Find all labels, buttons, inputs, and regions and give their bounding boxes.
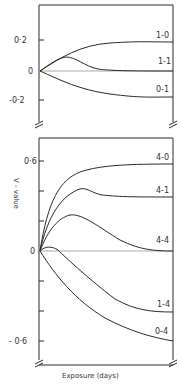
series-1-4 [40,247,173,312]
label-1-0: 1-0 [156,31,169,40]
bottom-tick-0: 0 [30,247,35,256]
series-4-0 [40,164,173,251]
label-4-1: 4-1 [156,186,169,195]
series-4-4 [40,215,173,251]
y-axis-title: V - value [12,178,20,209]
series-0-1 [40,71,173,97]
top-panel [35,5,177,128]
break-mark-right-top [169,121,177,128]
series-1-1 [40,57,173,71]
label-0-1: 0-1 [156,85,169,94]
top-tick-minus-0.2: -0·2 [9,96,25,105]
label-4-0: 4-0 [156,153,169,162]
x-axis-title: Exposure (days) [62,372,119,380]
series-1-0 [40,42,173,71]
label-0-4: 0-4 [155,327,168,336]
break-mark-right-bottom [169,360,177,367]
series-0-4 [40,251,173,341]
label-1-1: 1-1 [158,57,171,66]
bottom-tick-minus-0.6: - 0·6 [9,337,27,346]
bottom-tick-0.6: 0·6 [24,157,37,166]
break-mark-left-bottom [35,360,43,367]
v-value-chart: 0·2 0 -0·2 1-0 1-1 0-1 0·6 0 - 0·6 4-0 4… [0,0,180,386]
break-mark-left-top [35,121,43,128]
label-1-4: 1-4 [157,300,170,309]
label-4-4: 4-4 [156,236,169,245]
top-tick-0: 0 [28,67,33,76]
top-tick-0.2: 0·2 [14,36,27,45]
